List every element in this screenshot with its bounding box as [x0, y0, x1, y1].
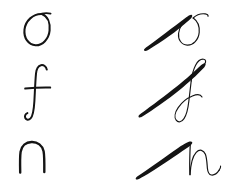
- letterform-canvas: [0, 0, 227, 188]
- plain-f-crossbar: [25, 88, 50, 89]
- letterform-comparison-sheet: Handwriting letterform comparison Plain …: [0, 0, 227, 188]
- plain-o-top-flick: [42, 13, 51, 14]
